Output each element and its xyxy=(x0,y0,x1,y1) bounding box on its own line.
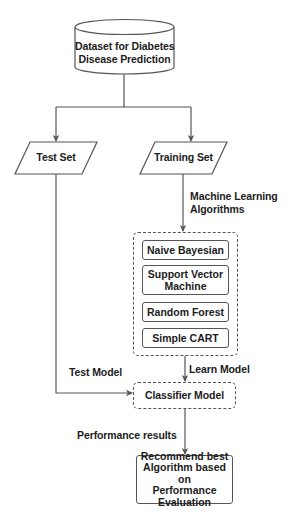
simple-cart-label: Simple CART xyxy=(152,332,219,345)
dataset-label-line2: Disease Prediction xyxy=(75,53,174,66)
random-forest-label: Random Forest xyxy=(147,306,224,319)
arrow-test-to-classifier xyxy=(56,174,132,393)
recommend-line2: Algorithm based on xyxy=(137,462,232,485)
dataset-node: Dataset for Diabetes Disease Prediction xyxy=(75,40,174,66)
test-set-node: Test Set xyxy=(15,151,97,164)
algorithm-naive-bayesian: Naive Bayesian xyxy=(142,240,229,260)
svm-label-line2: Machine xyxy=(164,280,206,293)
algorithm-svm: Support Vector Machine xyxy=(142,265,229,295)
ml-algorithms-line2: Algorithms xyxy=(190,203,278,216)
training-set-node: Training Set xyxy=(140,151,227,164)
classifier-model-label: Classifier Model xyxy=(145,389,224,402)
classifier-model-node: Classifier Model xyxy=(133,382,236,409)
recommend-best-algorithm-node: Recommend best Algorithm based on Perfor… xyxy=(136,455,233,504)
algorithm-simple-cart: Simple CART xyxy=(142,328,229,348)
test-model-edge-label: Test Model xyxy=(69,366,122,379)
flowchart-canvas: Dataset for Diabetes Disease Prediction … xyxy=(0,0,289,519)
ml-algorithms-line1: Machine Learning xyxy=(190,190,278,203)
performance-results-edge-label: Performance results xyxy=(77,429,177,442)
learn-model-edge-label: Learn Model xyxy=(189,363,250,376)
ml-algorithms-edge-label: Machine Learning Algorithms xyxy=(190,190,278,216)
recommend-line4: Evaluation xyxy=(158,497,211,509)
algorithm-random-forest: Random Forest xyxy=(142,302,229,322)
dataset-label-line1: Dataset for Diabetes xyxy=(75,40,174,53)
svm-label-line1: Support Vector xyxy=(148,268,223,281)
naive-bayesian-label: Naive Bayesian xyxy=(147,244,224,257)
